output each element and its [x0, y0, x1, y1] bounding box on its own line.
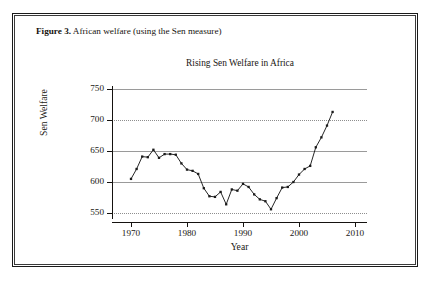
data-point-1989: [236, 190, 238, 192]
data-point-2002: [309, 165, 311, 167]
data-point-1977: [169, 153, 171, 155]
chart-title: Rising Sen Welfare in Africa: [112, 58, 368, 68]
series-line: [131, 112, 333, 209]
data-point-2003: [315, 146, 317, 148]
y-tick-label-750: 750: [74, 83, 104, 93]
x-tick-label-1990: 1990: [223, 228, 263, 238]
data-point-1984: [208, 195, 210, 197]
data-point-1973: [147, 156, 149, 158]
x-tick-mark-2010: [355, 222, 356, 227]
y-tick-label-700: 700: [74, 114, 104, 124]
data-point-1981: [191, 170, 193, 172]
x-tick-label-1980: 1980: [167, 228, 207, 238]
data-point-2000: [298, 173, 300, 175]
data-point-1998: [287, 186, 289, 188]
data-point-1986: [219, 191, 221, 193]
data-point-1999: [292, 181, 294, 183]
data-point-1974: [152, 149, 154, 151]
figure-caption-label: Figure 3.: [36, 26, 71, 36]
data-point-1975: [158, 157, 160, 159]
data-series-sen-welfare: [112, 89, 367, 213]
data-point-1971: [135, 168, 137, 170]
data-point-1987: [225, 203, 227, 205]
data-point-1988: [231, 188, 233, 190]
figure-caption-text: African welfare (using the Sen measure): [73, 26, 222, 36]
data-point-1994: [264, 200, 266, 202]
data-point-2001: [303, 168, 305, 170]
y-tick-label-650: 650: [74, 145, 104, 155]
data-point-1996: [275, 197, 277, 199]
x-tick-mark-1970: [131, 222, 132, 227]
data-point-1980: [186, 168, 188, 170]
x-tick-mark-1980: [187, 222, 188, 227]
data-point-1972: [141, 155, 143, 157]
x-tick-label-2010: 2010: [335, 228, 375, 238]
data-point-2004: [320, 136, 322, 138]
data-point-1979: [180, 162, 182, 164]
figure-container: Figure 3. African welfare (using the Sen…: [0, 0, 431, 285]
data-point-1982: [197, 173, 199, 175]
x-axis-line: [112, 222, 367, 223]
data-point-1993: [259, 198, 261, 200]
data-point-2006: [331, 111, 333, 113]
data-point-1983: [203, 187, 205, 189]
data-point-2005: [326, 124, 328, 126]
y-axis-label: Sen Welfare: [38, 68, 49, 158]
data-point-1997: [281, 186, 283, 188]
x-tick-mark-2000: [299, 222, 300, 227]
x-axis-label: Year: [112, 241, 367, 252]
data-point-1985: [214, 196, 216, 198]
data-point-1990: [242, 183, 244, 185]
x-tick-label-1970: 1970: [111, 228, 151, 238]
x-tick-label-2000: 2000: [279, 228, 319, 238]
y-tick-label-600: 600: [74, 176, 104, 186]
plot-area: [112, 89, 367, 213]
data-point-1992: [253, 193, 255, 195]
x-tick-mark-1990: [243, 222, 244, 227]
data-point-1976: [163, 153, 165, 155]
data-point-1978: [175, 154, 177, 156]
figure-caption: Figure 3. African welfare (using the Sen…: [36, 25, 366, 37]
data-point-1991: [247, 186, 249, 188]
data-point-1970: [130, 178, 132, 180]
y-tick-mark-550: [107, 213, 113, 214]
y-tick-label-550: 550: [74, 207, 104, 217]
gridline-550: [112, 213, 367, 214]
data-point-1995: [270, 208, 272, 210]
